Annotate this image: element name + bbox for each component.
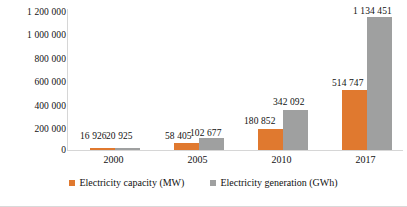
bar-group-bars xyxy=(76,9,151,150)
x-axis-tick-label-2017: 2017 xyxy=(328,154,403,166)
data-label-capacity-2017: 514 747 xyxy=(332,78,364,88)
legend-swatch-icon xyxy=(210,180,216,186)
legend-item-label: Electricity generation (GWh) xyxy=(220,177,337,189)
bar-chart: 1 200 000 1 000 000 800 000 600 000 400 … xyxy=(0,0,407,207)
legend-swatch-icon xyxy=(69,180,75,186)
bar-group-2000: 16 926 20 925 xyxy=(76,9,151,150)
data-label-generation-2017: 1 134 451 xyxy=(353,6,392,16)
bar-group-2017: 514 747 1 134 451 xyxy=(328,9,403,150)
data-label-generation-2000: 20 925 xyxy=(106,131,133,141)
chart-legend: Electricity capacity (MW) Electricity ge… xyxy=(0,177,407,189)
bar-generation-2005[interactable] xyxy=(199,138,224,150)
y-axis-tick-label: 600 000 xyxy=(4,77,66,87)
bar-group-bars xyxy=(244,9,319,150)
bar-generation-2000[interactable] xyxy=(115,148,140,151)
y-axis-tick-label: 400 000 xyxy=(4,101,66,111)
y-axis-tick-label: 1 000 000 xyxy=(4,30,66,40)
y-axis-tick-label: 1 200 000 xyxy=(4,7,66,17)
bar-capacity-2017[interactable] xyxy=(342,90,367,151)
data-label-generation-2010: 342 092 xyxy=(273,97,305,107)
data-label-capacity-2000: 16 926 xyxy=(80,131,107,141)
x-axis-tick-label-2000: 2000 xyxy=(76,154,151,166)
y-axis-tick-label: 800 000 xyxy=(4,54,66,64)
bar-capacity-2010[interactable] xyxy=(258,129,283,150)
y-axis-tick-label: 0 xyxy=(4,145,66,155)
x-axis-line xyxy=(67,150,403,151)
bar-capacity-2000[interactable] xyxy=(90,148,115,150)
legend-item-generation[interactable]: Electricity generation (GWh) xyxy=(210,177,337,189)
data-label-capacity-2010: 180 852 xyxy=(244,116,276,126)
bar-capacity-2005[interactable] xyxy=(174,143,199,150)
x-axis-tick-label-2005: 2005 xyxy=(160,154,235,166)
bar-group-2010: 180 852 342 092 xyxy=(244,9,319,150)
x-axis-tick-label-2010: 2010 xyxy=(244,154,319,166)
bar-generation-2017[interactable] xyxy=(367,17,392,150)
bar-generation-2010[interactable] xyxy=(283,110,308,150)
legend-item-capacity[interactable]: Electricity capacity (MW) xyxy=(69,177,184,189)
y-axis-tick-label: 200 000 xyxy=(4,124,66,134)
data-label-generation-2005: 102 677 xyxy=(190,128,222,138)
bar-group-2005: 58 405 102 677 xyxy=(160,9,235,150)
legend-item-label: Electricity capacity (MW) xyxy=(79,177,184,189)
plot-area: 16 926 20 925 58 405 102 677 180 852 342… xyxy=(68,9,403,150)
data-label-capacity-2005: 58 405 xyxy=(165,131,192,141)
